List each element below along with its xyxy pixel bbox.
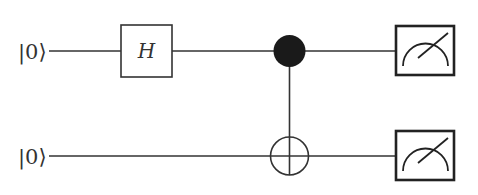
cnot-control-dot-icon — [274, 35, 306, 67]
measurement-box — [396, 131, 454, 180]
cnot-gate — [271, 35, 309, 175]
qubit-0: |0⟩ — [18, 40, 396, 65]
qubit-0-initial-state: |0⟩ — [18, 40, 47, 65]
hadamard-gate: H — [121, 25, 172, 77]
hadamard-gate-label: H — [137, 39, 156, 63]
measurement-gate-qubit-1 — [396, 131, 454, 180]
qubit-1-initial-state: |0⟩ — [18, 145, 47, 170]
measurement-box — [396, 26, 454, 75]
measurement-gate-qubit-0 — [396, 26, 454, 75]
qubit-1: |0⟩ — [18, 145, 396, 170]
quantum-circuit: |0⟩ |0⟩ H — [0, 0, 478, 195]
